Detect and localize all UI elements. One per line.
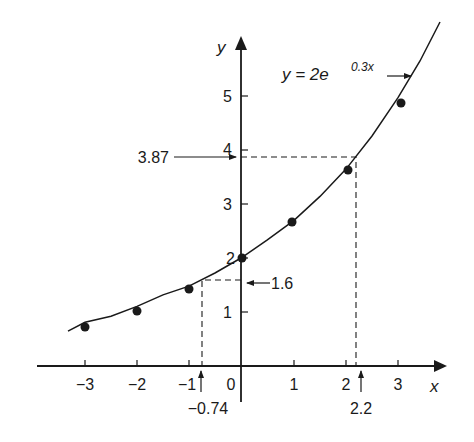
function-label-text: y = 2e (281, 65, 329, 84)
annotation-y-value: 3.87 (138, 149, 169, 166)
data-point (288, 218, 297, 227)
data-points (81, 99, 406, 332)
chart: x y −3 −2 −1 0 1 2 3 1 2 3 4 5 (0, 0, 474, 442)
annotation-y-value: 1.6 (271, 275, 293, 292)
y-axis-arrow-icon (235, 36, 247, 50)
annotation-x-value: −0.74 (188, 400, 229, 417)
y-tick-label: 4 (223, 141, 232, 158)
data-point (397, 99, 406, 108)
y-tick-labels: 1 2 3 4 5 (223, 88, 235, 321)
y-tick-label: 5 (223, 88, 232, 105)
x-tick-label: 3 (394, 376, 403, 393)
x-tick-label: 0 (227, 376, 236, 393)
data-point (81, 323, 90, 332)
function-label: y = 2e 0.3x (281, 60, 411, 84)
data-point (238, 254, 247, 263)
y-ticks (241, 96, 248, 312)
exponential-curve (68, 22, 440, 331)
annotation-x-value: 2.2 (350, 400, 372, 417)
y-tick-label: 3 (223, 196, 232, 213)
x-tick-labels: −3 −2 −1 0 1 2 3 (76, 376, 403, 393)
function-label-exponent: 0.3x (351, 60, 375, 74)
data-point (133, 307, 142, 316)
data-point (344, 166, 353, 175)
x-tick-label: 2 (342, 376, 351, 393)
axes: x y (37, 36, 447, 402)
x-axis-label: x (429, 377, 439, 396)
read-off-1-6 (202, 280, 241, 366)
x-tick-label: −1 (178, 376, 196, 393)
x-tick-label: 1 (290, 376, 299, 393)
x-tick-label: −2 (128, 376, 146, 393)
y-axis-label: y (216, 38, 227, 57)
x-axis-arrow-icon (434, 360, 447, 372)
y-tick-label: 1 (223, 304, 232, 321)
x-tick-label: −3 (76, 376, 94, 393)
read-off-lines (202, 157, 356, 366)
read-off-3-87 (241, 157, 356, 366)
data-point (185, 285, 194, 294)
